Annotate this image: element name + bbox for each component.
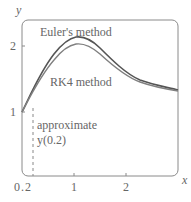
rk4-label: RK4 method — [50, 76, 112, 88]
plot-frame — [22, 20, 178, 176]
y-tick-label-1: 1 — [10, 106, 16, 118]
approximate-label: approximate — [37, 119, 97, 131]
y-axis-label: y — [16, 4, 21, 16]
x-tick-label-1: 1 — [71, 181, 77, 193]
x-tick-label-02: 0.2 — [14, 181, 32, 193]
x-axis-label: x — [182, 174, 187, 186]
y-tick-label-2: 2 — [10, 40, 16, 52]
x-tick-label-2: 2 — [123, 181, 129, 193]
y02-label: y(0.2) — [37, 134, 66, 146]
euler-label: Euler's method — [40, 26, 112, 38]
